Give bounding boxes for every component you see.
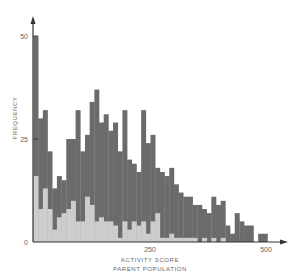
subset-bar — [183, 238, 188, 242]
subset-bar — [132, 221, 137, 242]
x-tick-label-250: 250 — [144, 246, 156, 253]
total-bar — [239, 221, 244, 242]
total-bar — [211, 197, 216, 242]
subset-bar — [99, 217, 104, 242]
subset-bar — [85, 197, 90, 242]
total-bar — [193, 205, 198, 242]
subset-bar — [221, 238, 226, 242]
subset-bar — [174, 238, 179, 242]
subset-bar — [160, 238, 165, 242]
total-bar — [118, 151, 123, 242]
total-bar — [165, 176, 170, 242]
total-bar — [113, 123, 118, 242]
y-axis-title: FREQUENCY — [12, 96, 18, 139]
subset-bar — [43, 188, 48, 242]
total-bar — [197, 205, 202, 242]
subset-bar — [94, 221, 99, 242]
y-tick-label-50: 50 — [20, 33, 28, 40]
subset-bar — [165, 238, 170, 242]
subset-bar — [127, 230, 132, 242]
subset-bar — [108, 221, 113, 242]
total-bar — [188, 197, 193, 242]
subset-bar — [113, 226, 118, 242]
total-bar — [202, 209, 207, 242]
subset-bar — [151, 221, 156, 242]
total-bar — [258, 234, 263, 242]
subset-bar — [90, 205, 95, 242]
total-bar — [235, 213, 240, 242]
total-bar — [263, 234, 268, 242]
subset-bar — [52, 230, 57, 242]
total-bar — [249, 226, 254, 242]
subset-bar — [122, 221, 127, 242]
total-bar — [146, 143, 151, 242]
x-axis-title: ACTIVITY SCORE — [121, 257, 179, 263]
subset-bar — [48, 209, 53, 242]
total-bar — [169, 168, 174, 242]
total-bar — [225, 226, 230, 242]
subset-bar — [169, 234, 174, 242]
total-bar — [94, 90, 99, 242]
x-axis-arrow-icon — [280, 240, 288, 245]
y-axis-arrow-icon — [31, 16, 36, 24]
subset-bar — [202, 238, 207, 242]
subset-bar — [155, 213, 160, 242]
total-bar — [230, 234, 235, 242]
subset-bar — [71, 201, 76, 242]
x-tick-label-500: 500 — [260, 246, 272, 253]
histogram-chart: 50 25 0 250 500 ACTIVITY SCORE PARENT PO… — [0, 0, 299, 277]
subset-bar — [62, 213, 67, 242]
total-bar — [221, 201, 226, 242]
subset-bar — [188, 238, 193, 242]
x-axis-subtitle: PARENT POPULATION — [113, 266, 187, 272]
subset-bar — [136, 226, 141, 242]
subset-bar — [57, 217, 62, 242]
subset-bar — [141, 221, 146, 242]
subset-bar — [193, 238, 198, 242]
total-bar — [207, 213, 212, 242]
subset-bar — [179, 238, 184, 242]
y-tick-label-0: 0 — [24, 239, 28, 246]
total-bar — [179, 193, 184, 242]
total-bar — [183, 197, 188, 242]
subset-bar — [38, 209, 43, 242]
subset-bar — [104, 221, 109, 242]
subset-bar — [118, 238, 123, 242]
total-bar — [216, 205, 221, 242]
subset-bar — [76, 221, 81, 242]
subset-bar — [146, 234, 151, 242]
total-bar — [160, 172, 165, 242]
subset-bar — [80, 221, 85, 242]
subset-bar — [211, 238, 216, 242]
total-bar — [244, 226, 249, 242]
total-bar — [174, 184, 179, 242]
y-tick-label-25: 25 — [20, 136, 28, 143]
subset-bar — [66, 209, 71, 242]
subset-bar — [34, 176, 39, 242]
